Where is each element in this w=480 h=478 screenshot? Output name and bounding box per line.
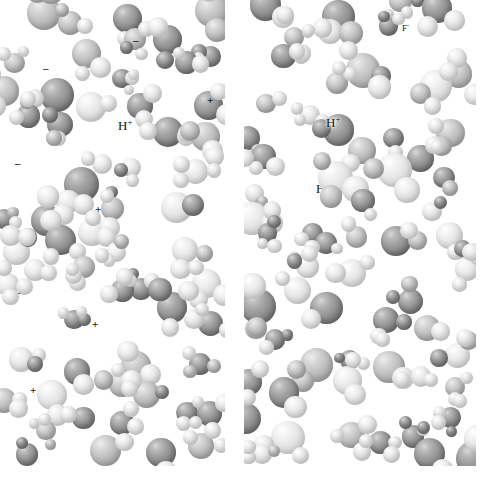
hydrogen-atom-sphere — [251, 360, 270, 379]
hydrogen-atom-sphere — [95, 248, 109, 262]
hydrogen-atom-sphere — [341, 216, 357, 232]
hydrogen-atom-sphere — [359, 434, 373, 448]
hydrochloric-acid-panel: H+Cl-––+–+–+++– — [0, 0, 225, 466]
heavy-atom-sphere — [148, 278, 171, 301]
hydrogen-atom-sphere — [257, 238, 268, 249]
hydrogen-atom-sphere — [345, 352, 360, 367]
hydrogen-atom-sphere — [90, 57, 111, 78]
hydrogen-atom-sphere — [148, 17, 168, 37]
heavy-atom-sphere — [417, 421, 430, 434]
species-label-h: H+ — [118, 118, 132, 132]
hydrogen-atom-sphere — [92, 154, 112, 174]
hydrogen-atom-sphere — [76, 306, 87, 317]
hydrogen-atom-sphere — [207, 163, 222, 178]
hydrogen-atom-sphere — [268, 445, 280, 457]
hydrogen-atom-sphere — [189, 416, 202, 429]
hydrogen-atom-sphere — [18, 228, 36, 246]
hydrogen-atom-sphere — [302, 24, 315, 37]
hydrogen-atom-sphere — [452, 277, 467, 292]
hydrogen-atom-sphere — [20, 91, 36, 107]
hydrogen-atom-sphere — [368, 75, 391, 98]
charge-superscript: - — [407, 22, 409, 28]
hydrogen-atom-sphere — [216, 104, 225, 125]
species-label-f: F- — [402, 22, 409, 33]
hydrogen-atom-sphere — [325, 263, 345, 283]
hydrogen-atom-sphere — [196, 245, 213, 262]
heavy-atom-sphere — [244, 403, 261, 434]
hydrogen-atom-sphere — [259, 340, 274, 355]
hydrogen-atom-sphere — [100, 285, 118, 303]
hydrogen-atom-sphere — [205, 18, 225, 43]
hydrogen-atom-sphere — [424, 97, 441, 114]
hydrogen-atom-sphere — [424, 373, 438, 387]
hydrogen-atom-sphere — [16, 278, 33, 295]
hydrofluoric-acid-panel: F-H+HF — [244, 0, 476, 466]
hydrogen-atom-sphere — [192, 55, 209, 72]
molecular-simulation-figure: H+Cl-––+–+–+++– F-H+HF — [0, 0, 480, 478]
hydrogen-atom-sphere — [207, 359, 221, 373]
hydrogen-atom-sphere — [94, 370, 113, 389]
hydrogen-atom-sphere — [9, 399, 28, 418]
heavy-atom-sphere — [287, 253, 303, 269]
hydrogen-atom-sphere — [462, 243, 476, 261]
heavy-atom-sphere — [156, 51, 174, 69]
hydrogen-atom-sphere — [100, 95, 117, 112]
charge-superscript: + — [127, 117, 132, 127]
hydrogen-atom-sphere — [161, 318, 179, 336]
hydrogen-atom-sphere — [428, 118, 444, 134]
hydrogen-atom-sphere — [183, 430, 198, 445]
hydrogen-atom-sphere — [244, 389, 256, 406]
hydrogen-atom-sphere — [464, 84, 476, 106]
hydrogen-atom-sphere — [27, 0, 61, 30]
hydrogen-atom-sphere — [330, 429, 344, 443]
hydrogen-atom-sphere — [364, 208, 377, 221]
heavy-atom-sphere — [40, 78, 74, 112]
heavy-atom-sphere — [182, 194, 204, 216]
hydrogen-atom-sphere — [40, 265, 56, 281]
hydrogen-atom-sphere — [215, 394, 225, 412]
hydrogen-atom-sphere — [394, 371, 411, 388]
heavy-atom-sphere — [155, 385, 170, 400]
species-label-h: H+ — [326, 115, 340, 129]
hydrogen-atom-sphere — [75, 66, 90, 81]
hydrogen-atom-sphere — [400, 222, 418, 240]
heavy-atom-sphere — [378, 11, 389, 22]
hydrogen-atom-sphere — [332, 61, 346, 75]
hydrogen-atom-sphere — [204, 422, 221, 439]
hydrogen-atom-sphere — [320, 185, 342, 207]
hydrogen-atom-sphere — [331, 243, 343, 255]
hydrogen-atom-sphere — [18, 46, 29, 57]
hydrogen-atom-sphere — [432, 459, 453, 466]
hydrogen-atom-sphere — [219, 322, 225, 338]
hydrogen-atom-sphere — [453, 394, 467, 408]
heavy-atom-sphere — [267, 215, 280, 228]
hydrogen-atom-sphere — [43, 248, 60, 265]
heavy-atom-sphere — [282, 329, 293, 340]
charge-superscript: + — [335, 114, 340, 124]
heavy-atom-sphere — [120, 41, 133, 54]
hydrogen-atom-sphere — [128, 69, 139, 80]
hydrogen-atom-sphere — [127, 418, 144, 435]
hydrogen-atom-sphere — [289, 43, 305, 59]
hydrogen-atom-sphere — [114, 234, 129, 249]
hydrogen-atom-sphere — [266, 157, 285, 176]
heavy-atom-sphere — [399, 416, 412, 429]
heavy-atom-sphere — [434, 196, 447, 209]
hydrogen-atom-sphere — [77, 18, 93, 34]
heavy-atom-sphere — [446, 426, 457, 437]
hydrogen-atom-sphere — [139, 122, 157, 140]
hydrogen-atom-sphere — [115, 433, 133, 451]
hydrogen-atom-sphere — [301, 309, 321, 329]
hydrogen-atom-sphere — [439, 62, 458, 81]
hydrogen-atom-sphere — [294, 114, 306, 126]
hydrogen-atom-sphere — [394, 177, 420, 203]
hydrogen-atom-sphere — [431, 415, 446, 430]
hydrogen-atom-sphere — [173, 173, 188, 188]
heavy-atom-sphere — [42, 107, 58, 123]
heavy-atom-sphere — [334, 353, 345, 364]
hydrogen-atom-sphere — [284, 396, 307, 419]
hydrogen-atom-sphere — [182, 346, 196, 360]
hydrogen-atom-sphere — [183, 365, 196, 378]
hydrogen-atom-sphere — [383, 446, 400, 463]
hydrogen-atom-sphere — [46, 130, 62, 146]
